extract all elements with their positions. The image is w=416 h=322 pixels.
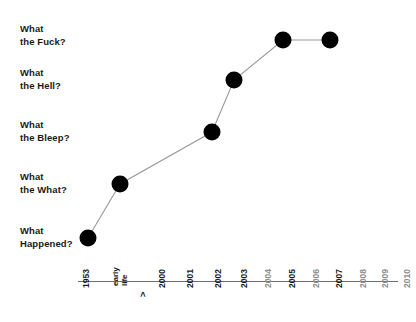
x-axis-tick-2004: 2004 bbox=[264, 276, 273, 288]
data-point-2000 bbox=[112, 176, 129, 193]
data-point-2005 bbox=[275, 32, 292, 49]
x-axis-tick-2001: 2001 bbox=[186, 276, 195, 288]
x-axis-tick-2002: 2002 bbox=[214, 276, 223, 288]
x-axis-tick-2007: 2007 bbox=[335, 276, 344, 288]
x-axis-tick-early-life: early life bbox=[112, 256, 129, 286]
x-axis-tick-2003: 2003 bbox=[240, 276, 249, 288]
plot-area bbox=[0, 0, 416, 322]
data-point-2002 bbox=[204, 124, 221, 141]
x-axis-tick-2009: 2009 bbox=[381, 276, 390, 288]
x-axis-tick-2008: 2008 bbox=[359, 276, 368, 288]
x-axis-tick-line-2: life bbox=[121, 256, 130, 286]
data-point-2003 bbox=[226, 72, 243, 89]
x-axis-tick-2006: 2006 bbox=[312, 276, 321, 288]
x-axis-tick-2000: 2000 bbox=[158, 276, 167, 288]
chart-container: What the Fuck? What the Hell? What the B… bbox=[0, 0, 416, 322]
data-point-markers bbox=[80, 32, 339, 247]
data-point-1953 bbox=[80, 230, 97, 247]
x-axis-tick-2005: 2005 bbox=[288, 276, 297, 288]
data-point-2007 bbox=[322, 32, 339, 49]
x-axis-tick-1953: 1953 bbox=[82, 276, 91, 288]
chevron-right-icon: > bbox=[138, 292, 148, 297]
x-axis-tick-2010: 2010 bbox=[403, 276, 412, 288]
